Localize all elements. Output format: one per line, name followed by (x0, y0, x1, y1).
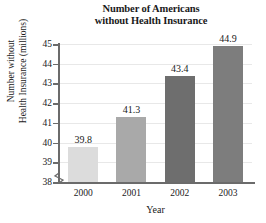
x-axis-tick-label: 2002 (158, 188, 202, 199)
y-axis-tick (53, 44, 59, 46)
y-axis-tick (53, 64, 59, 66)
x-axis-tick-label: 2000 (61, 188, 105, 199)
y-axis-tick-label: 44 (16, 59, 52, 69)
chart-title: Number of Americans without Health Insur… (46, 3, 256, 27)
bar (68, 147, 98, 182)
x-axis-line (59, 182, 255, 184)
y-axis-tick (53, 103, 59, 105)
x-axis-tick-label: 2003 (206, 188, 250, 199)
x-axis-tick-label: 2001 (109, 188, 153, 199)
chart-title-line-1: Number of Americans (46, 3, 256, 15)
y-axis-tick-label: 43 (16, 78, 52, 88)
y-axis-tick-label: 41 (16, 118, 52, 128)
bar (116, 117, 146, 182)
x-axis-title: Year (59, 204, 252, 215)
y-axis-tick-labels: 3839404142434445 (8, 0, 52, 223)
y-axis-tick-label: 38 (16, 177, 52, 187)
bar (165, 76, 195, 182)
y-axis-tick-label: 45 (16, 39, 52, 49)
y-axis-tick-label: 42 (16, 98, 52, 108)
bar (213, 46, 243, 182)
chart-title-line-2: without Health Insurance (46, 15, 256, 27)
y-axis-tick-label: 39 (16, 157, 52, 167)
bar-value-label: 43.4 (158, 63, 202, 74)
y-axis-tick (53, 83, 59, 85)
y-axis-tick (53, 123, 59, 125)
y-axis-tick (53, 143, 59, 145)
y-axis-tick-label: 40 (16, 138, 52, 148)
bar-value-label: 39.8 (61, 134, 105, 145)
y-axis-tick (53, 182, 59, 184)
y-axis-tick (53, 162, 59, 164)
bar-value-label: 41.3 (109, 104, 153, 115)
bar-value-label: 44.9 (206, 33, 250, 44)
bar-chart: Number of Americans without Health Insur… (0, 0, 266, 223)
gridline (59, 44, 252, 45)
